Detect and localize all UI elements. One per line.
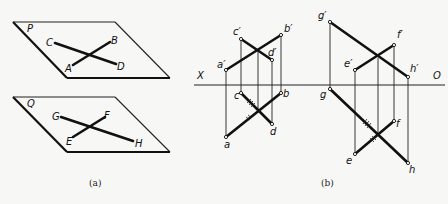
c-prime-label: c′ [233, 26, 241, 37]
b-prime-label: b′ [284, 23, 293, 34]
g-label: g [320, 89, 326, 100]
b-label: b [283, 88, 289, 99]
h-prime-label: h′ [410, 63, 419, 74]
point-c-label: C [46, 37, 53, 48]
axis-x-label: X [196, 70, 205, 81]
point-a-label: A [64, 63, 72, 74]
a-label: a [224, 139, 230, 150]
left-projection: a′ b′ c′ d′ a b c d [217, 23, 293, 150]
point-g-label: G [52, 111, 60, 122]
axis-o-label: O [433, 70, 441, 81]
d-label: d [270, 126, 277, 137]
line-cd [55, 43, 116, 64]
right-projection: g′ h′ e′ f′ g h e f [318, 10, 419, 175]
plane-p: P C B A D [13, 22, 170, 78]
e-prime-label: e′ [344, 58, 353, 69]
point-f-label: F [104, 110, 110, 121]
plane-p-label: P [27, 23, 34, 34]
e-label: e [346, 155, 352, 166]
d-prime-label: d′ [268, 47, 277, 58]
point-b-label: B [111, 35, 118, 46]
plane-q: Q G F E H [13, 97, 170, 152]
line-cd-top [241, 93, 272, 124]
point-d-label: D [117, 61, 125, 72]
f-label: f [396, 118, 401, 129]
plane-q-label: Q [27, 98, 35, 109]
f-prime-label: f′ [397, 29, 404, 40]
figure-b: X O [194, 10, 445, 188]
caption-a: (a) [89, 178, 101, 188]
line-ab [73, 42, 110, 65]
line-ef [73, 117, 105, 137]
c-label: c [234, 90, 240, 101]
caption-b: (b) [321, 178, 334, 188]
line-ef-top [355, 121, 394, 154]
g-prime-label: g′ [318, 10, 327, 21]
projection-diagram: P C B A D Q G F E H (a) X O [0, 0, 448, 204]
a-prime-label: a′ [217, 59, 226, 70]
h-label: h [409, 164, 415, 175]
point-h-label: H [135, 138, 143, 149]
figure-a: P C B A D Q G F E H (a) [13, 22, 170, 188]
line-e-prime-f-prime [355, 45, 394, 70]
point-e-label: E [66, 136, 73, 147]
